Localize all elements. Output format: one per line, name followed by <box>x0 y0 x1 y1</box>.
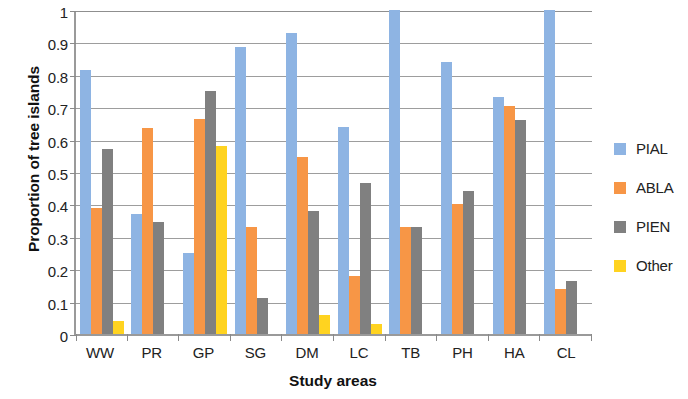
x-axis-tick-label-sg: SG <box>229 344 281 368</box>
x-axis-tick <box>281 334 282 341</box>
bar-lc-pien <box>360 183 371 334</box>
bar-pr-abla <box>142 128 153 334</box>
bar-ph-abla <box>452 204 463 334</box>
legend-swatch-other-icon <box>614 260 626 272</box>
x-axis-title: Study areas <box>74 372 592 390</box>
bar-lc-other <box>371 324 382 334</box>
x-axis-tick-label-dm: DM <box>281 344 333 368</box>
bar-cl-abla <box>555 289 566 334</box>
bar-group-pr <box>128 12 180 334</box>
bar-ha-pial <box>493 97 504 334</box>
bar-group-ww <box>76 12 128 334</box>
bar-dm-pial <box>286 33 297 334</box>
y-axis-tick-label: 0.9 <box>22 36 68 53</box>
y-axis-tick-label: 0.6 <box>22 133 68 150</box>
x-axis-tick-label-lc: LC <box>333 344 385 368</box>
y-axis-tick-label: 0.4 <box>22 198 68 215</box>
bar-group-ph <box>437 12 489 334</box>
y-axis-tick-labels: 00.10.20.30.40.50.60.70.80.91 <box>22 0 68 340</box>
legend: PIALABLAPIENOther <box>614 140 674 274</box>
legend-item-abla[interactable]: ABLA <box>614 179 674 196</box>
bar-group-sg <box>231 12 283 334</box>
bar-chart-figure: Proportion of tree islands 00.10.20.30.4… <box>0 0 688 399</box>
bar-ha-abla <box>504 106 515 334</box>
bar-group-cl <box>540 12 592 334</box>
bar-cl-pien <box>566 281 577 334</box>
legend-label: ABLA <box>636 179 674 196</box>
bar-ph-pial <box>441 62 452 334</box>
x-axis-tick <box>127 334 128 341</box>
y-axis-tick-label: 0.5 <box>22 166 68 183</box>
bar-group-gp <box>179 12 231 334</box>
legend-item-other[interactable]: Other <box>614 257 674 274</box>
bar-dm-abla <box>297 157 308 334</box>
bar-ph-pien <box>463 191 474 334</box>
bar-cl-pial <box>544 10 555 334</box>
x-axis-tick <box>178 334 179 341</box>
bar-ww-pial <box>80 70 91 334</box>
bar-tb-abla <box>400 227 411 334</box>
bar-ww-abla <box>91 208 102 334</box>
bar-pr-pien <box>153 222 164 334</box>
x-axis-tick <box>436 334 437 341</box>
bar-gp-other <box>216 146 227 334</box>
x-axis-tick-label-cl: CL <box>540 344 592 368</box>
x-axis-tick-label-gp: GP <box>178 344 230 368</box>
bar-dm-pien <box>308 211 319 334</box>
bar-ww-pien <box>102 149 113 334</box>
y-axis-tick-label: 0.1 <box>22 295 68 312</box>
x-axis-tick-label-ha: HA <box>488 344 540 368</box>
y-axis-tick-label: 0.2 <box>22 263 68 280</box>
plot-area <box>74 12 592 336</box>
legend-label: PIAL <box>636 140 668 157</box>
x-axis-tick <box>591 334 592 341</box>
legend-swatch-pien-icon <box>614 221 626 233</box>
bar-dm-other <box>319 315 330 334</box>
bar-gp-abla <box>194 119 205 334</box>
bar-tb-pien <box>411 227 422 334</box>
bar-group-lc <box>334 12 386 334</box>
x-axis-tick-labels: WWPRGPSGDMLCTBPHHACL <box>74 344 592 368</box>
bar-pr-pial <box>131 214 142 334</box>
bar-group-dm <box>282 12 334 334</box>
bar-gp-pial <box>183 253 194 334</box>
x-axis-tick <box>539 334 540 341</box>
legend-item-pien[interactable]: PIEN <box>614 218 674 235</box>
bar-group-ha <box>489 12 541 334</box>
y-axis-tick-label: 0.3 <box>22 230 68 247</box>
legend-item-pial[interactable]: PIAL <box>614 140 674 157</box>
bar-sg-abla <box>246 227 257 334</box>
x-axis-tick <box>488 334 489 341</box>
x-axis-tick-label-ww: WW <box>74 344 126 368</box>
legend-swatch-abla-icon <box>614 182 626 194</box>
bar-lc-abla <box>349 276 360 334</box>
bar-sg-pien <box>257 298 268 334</box>
bar-ww-other <box>113 321 124 334</box>
bar-lc-pial <box>338 127 349 334</box>
bar-sg-pial <box>235 47 246 334</box>
legend-swatch-pial-icon <box>614 143 626 155</box>
bar-ha-pien <box>515 120 526 334</box>
x-axis-tick-label-tb: TB <box>385 344 437 368</box>
legend-label: PIEN <box>636 218 670 235</box>
x-axis-tick <box>230 334 231 341</box>
x-axis-tick-label-pr: PR <box>126 344 178 368</box>
bar-groups <box>76 12 592 334</box>
bar-tb-pial <box>389 10 400 334</box>
bar-gp-pien <box>205 91 216 334</box>
y-axis-tick-label: 1 <box>22 4 68 21</box>
legend-label: Other <box>636 257 673 274</box>
x-axis-tick-label-ph: PH <box>437 344 489 368</box>
x-axis-tick <box>333 334 334 341</box>
x-axis-tick <box>76 334 77 341</box>
x-axis-tick <box>385 334 386 341</box>
y-axis-tick-label: 0.8 <box>22 68 68 85</box>
y-axis-tick-label: 0.7 <box>22 101 68 118</box>
y-axis-tick-label: 0 <box>22 328 68 345</box>
bar-group-tb <box>386 12 438 334</box>
